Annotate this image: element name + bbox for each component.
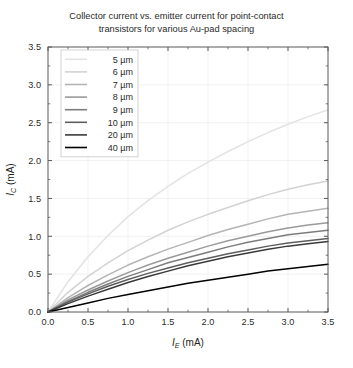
y-tick-label: 3.5: [28, 42, 41, 52]
x-axis-label-text: IE (mA): [172, 337, 204, 349]
curve-7um: [48, 208, 328, 312]
y-tick-label: 1.0: [28, 232, 41, 242]
chart-figure: Collector current vs. emitter current fo…: [0, 0, 353, 368]
y-tick-label: 1.5: [28, 194, 41, 204]
x-tick-label: 0.5: [82, 317, 95, 327]
legend-label: 9 µm: [113, 105, 133, 115]
x-axis-label: IE (mA): [172, 337, 204, 349]
x-tick-label: 1.5: [162, 317, 175, 327]
x-tick-labels: 0.00.51.01.52.02.53.03.5: [42, 317, 335, 327]
legend-label: 20 µm: [108, 130, 133, 140]
x-tick-label: 2.5: [242, 317, 255, 327]
y-axis-label-text: IC (mA): [5, 163, 17, 195]
legend-box: [61, 50, 138, 157]
y-tick-label: 0.0: [28, 307, 41, 317]
y-tick-label: 2.0: [28, 156, 41, 166]
y-tick-label: 3.0: [28, 80, 41, 90]
curve-40um: [48, 264, 328, 312]
y-tick-labels: 0.00.51.01.52.02.53.03.5: [28, 42, 41, 317]
y-tick-label: 0.5: [28, 269, 41, 279]
legend-label: 6 µm: [113, 67, 133, 77]
x-tick-label: 2.0: [202, 317, 215, 327]
x-tick-label: 1.0: [122, 317, 135, 327]
x-tick-label: 3.5: [322, 317, 335, 327]
y-tick-label: 2.5: [28, 118, 41, 128]
legend-label: 5 µm: [113, 55, 133, 65]
legend-label: 40 µm: [108, 143, 133, 153]
y-axis-label: IC (mA): [5, 163, 17, 195]
plot-area: 0.00.51.01.52.02.53.03.50.00.51.01.52.02…: [0, 0, 353, 368]
legend-label: 10 µm: [108, 118, 133, 128]
legend-label: 8 µm: [113, 92, 133, 102]
x-tick-label: 0.0: [42, 317, 55, 327]
legend-label: 7 µm: [113, 80, 133, 90]
legend: 5 µm6 µm7 µm8 µm9 µm10 µm20 µm40 µm: [61, 50, 138, 157]
x-tick-label: 3.0: [282, 317, 295, 327]
